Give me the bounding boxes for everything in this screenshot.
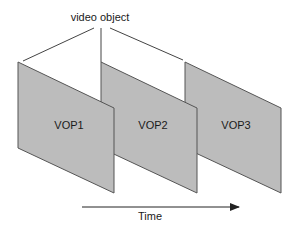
video-object-title: video object <box>71 11 130 23</box>
vop1-label: VOP1 <box>54 119 83 131</box>
time-label: Time <box>138 210 162 222</box>
video-object-diagram: video object VOP3 VOP2 VOP1 Time <box>0 0 296 227</box>
connector-line-vop3 <box>110 28 183 60</box>
vop2-plane: VOP2 <box>101 62 197 193</box>
vop2-label: VOP2 <box>138 119 167 131</box>
connector-lines <box>23 28 183 62</box>
vop3-label: VOP3 <box>221 119 250 131</box>
connector-line-vop1 <box>23 28 94 61</box>
vop1-plane: VOP1 <box>18 62 114 193</box>
vop3-plane: VOP3 <box>185 62 281 193</box>
